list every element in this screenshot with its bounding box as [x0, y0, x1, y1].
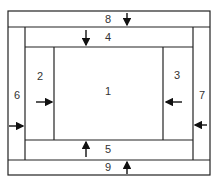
- region-3-label: 3: [174, 69, 180, 81]
- region-1-label: 1: [105, 85, 111, 97]
- region-2-label: 2: [37, 70, 43, 82]
- region-6-label: 6: [14, 89, 20, 101]
- region-8-label: 8: [105, 13, 111, 25]
- nested-regions-diagram: 8 4 2 1 3 6 7 5 9: [0, 0, 219, 183]
- region-5-label: 5: [105, 143, 111, 155]
- region-9-label: 9: [105, 161, 111, 173]
- region-4-label: 4: [105, 31, 111, 43]
- region-7-label: 7: [199, 89, 205, 101]
